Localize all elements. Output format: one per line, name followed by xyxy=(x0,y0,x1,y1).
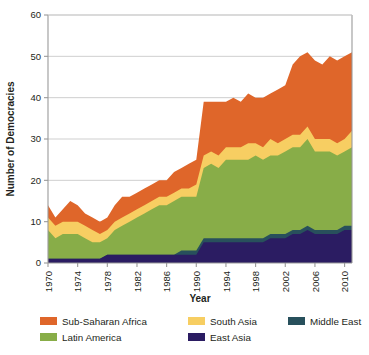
y-tick-label-0: 0 xyxy=(36,257,41,268)
y-axis-title: Number of Democracies xyxy=(5,81,16,196)
legend-label-east-asia: East Asia xyxy=(210,332,251,343)
stacked-area-chart: 0102030405060 19701974197819821986199019… xyxy=(0,0,369,355)
y-tick-label-40: 40 xyxy=(30,92,41,103)
x-tick-label-1986: 1986 xyxy=(161,271,172,292)
legend-item-middle-east[interactable]: Middle East xyxy=(288,316,361,327)
legend-item-latin-america[interactable]: Latin America xyxy=(40,332,122,343)
y-axis-ticks: 0102030405060 xyxy=(30,9,48,268)
chart-legend: Sub-Saharan AfricaLatin AmericaSouth Asi… xyxy=(40,316,361,343)
y-tick-label-30: 30 xyxy=(30,133,41,144)
y-tick-label-10: 10 xyxy=(30,216,41,227)
x-axis-title: Year xyxy=(189,293,210,304)
legend-item-sub-saharan-africa[interactable]: Sub-Saharan Africa xyxy=(40,316,148,327)
area-series-group xyxy=(48,52,352,263)
legend-item-east-asia[interactable]: East Asia xyxy=(188,332,251,343)
legend-label-latin-america: Latin America xyxy=(62,332,122,343)
legend-swatch-middle-east xyxy=(288,317,305,325)
x-axis-ticks: 1970197419781982198619901994199820022006… xyxy=(43,263,351,292)
x-tick-label-1994: 1994 xyxy=(221,271,232,292)
chart-canvas: 0102030405060 19701974197819821986199019… xyxy=(0,0,369,355)
x-tick-label-1982: 1982 xyxy=(132,271,143,292)
y-tick-label-60: 60 xyxy=(30,9,41,20)
y-tick-label-50: 50 xyxy=(30,51,41,62)
x-tick-label-2002: 2002 xyxy=(280,271,291,292)
legend-label-sub-saharan-africa: Sub-Saharan Africa xyxy=(62,316,148,327)
x-tick-label-1998: 1998 xyxy=(250,271,261,292)
x-tick-label-1978: 1978 xyxy=(102,271,113,292)
legend-item-south-asia[interactable]: South Asia xyxy=(188,316,257,327)
x-tick-label-2006: 2006 xyxy=(310,271,321,292)
chart-svg: 0102030405060 19701974197819821986199019… xyxy=(0,0,369,355)
legend-swatch-east-asia xyxy=(188,333,205,341)
legend-swatch-sub-saharan-africa xyxy=(40,317,57,325)
legend-label-middle-east: Middle East xyxy=(310,316,361,327)
legend-swatch-latin-america xyxy=(40,333,57,341)
x-tick-label-1990: 1990 xyxy=(191,271,202,292)
x-tick-label-2010: 2010 xyxy=(339,271,350,292)
legend-label-south-asia: South Asia xyxy=(210,316,257,327)
y-tick-label-20: 20 xyxy=(30,175,41,186)
legend-swatch-south-asia xyxy=(188,317,205,325)
x-tick-label-1974: 1974 xyxy=(72,271,83,292)
x-tick-label-1970: 1970 xyxy=(43,271,54,292)
